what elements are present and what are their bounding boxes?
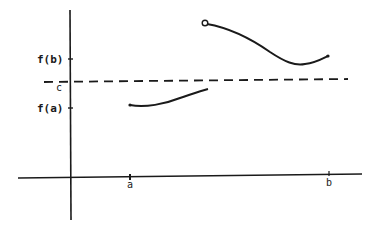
lower-curve: [130, 89, 208, 106]
open-circle-point: [202, 20, 208, 26]
dashed-c-line: [44, 79, 348, 82]
y-axis: [70, 10, 71, 220]
lower-curve-start-point: [128, 103, 131, 106]
label-a: a: [127, 179, 133, 190]
label-c: c: [56, 82, 62, 93]
label-b: b: [326, 177, 332, 188]
ivt-diagram: f(b) c f(a) a b: [0, 0, 376, 235]
label-fb: f(b): [37, 53, 64, 66]
x-axis: [18, 174, 362, 178]
upper-curve-end-point: [326, 54, 329, 57]
label-fa: f(a): [37, 102, 64, 115]
upper-curve: [207, 24, 328, 65]
